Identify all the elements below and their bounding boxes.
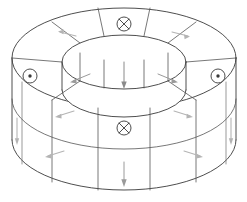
left-dot-icon	[23, 69, 37, 83]
top-cross-icon	[117, 17, 131, 31]
torus-diagram-figure	[0, 0, 247, 202]
torus-diagram-canvas	[0, 0, 247, 202]
right-dot-icon	[211, 69, 225, 83]
bottom-cross-icon	[117, 121, 131, 135]
